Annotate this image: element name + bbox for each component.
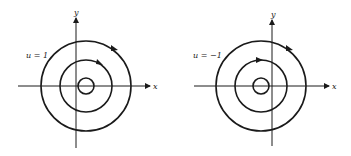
right-phase-portrait: u = −1 x y <box>193 10 337 146</box>
left-parameter-label: u = 1 <box>26 51 48 60</box>
right-medium-direction-arrow-icon <box>256 57 263 63</box>
right-parameter-label: u = −1 <box>193 51 222 60</box>
right-x-axis-label: x <box>332 82 337 91</box>
left-x-axis-label: x <box>153 82 158 91</box>
left-large-direction-arrow-icon <box>111 45 118 51</box>
left-y-axis-label: y <box>73 8 79 17</box>
right-large-direction-arrow-icon <box>286 45 293 51</box>
left-medium-direction-arrow-icon <box>96 59 103 65</box>
right-y-axis-label: y <box>270 10 276 19</box>
left-phase-portrait: u = 1 x y <box>18 8 158 148</box>
phase-portrait-diagrams: u = 1 x y u = −1 x y <box>0 0 351 156</box>
